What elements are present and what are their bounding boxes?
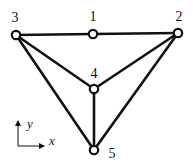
- coordinate-axes: x y: [18, 116, 55, 148]
- y-axis-label: y: [25, 116, 33, 131]
- member-2-5: [94, 33, 178, 150]
- member-1-2: [93, 33, 178, 34]
- joint-4-circle-icon: [90, 85, 98, 93]
- x-axis-label: x: [48, 133, 55, 148]
- joint-1-circle-icon: [89, 30, 97, 38]
- joint-3-circle-icon: [12, 31, 20, 39]
- joint-label-4: 4: [91, 66, 98, 81]
- joint-label-2: 2: [176, 9, 183, 24]
- member-3-5: [16, 35, 94, 150]
- joint-2-circle-icon: [174, 29, 182, 37]
- joint-label-3: 3: [12, 10, 19, 25]
- joint-label-5: 5: [109, 146, 116, 161]
- joint-5-circle-icon: [90, 146, 98, 154]
- joint-label-1: 1: [90, 9, 97, 24]
- truss-diagram: 12345 x y: [0, 0, 193, 163]
- member-3-1: [16, 34, 93, 35]
- member-3-4: [16, 35, 94, 89]
- member-2-4: [94, 33, 178, 89]
